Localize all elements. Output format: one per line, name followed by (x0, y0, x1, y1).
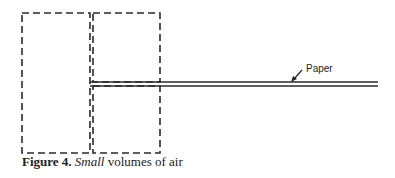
figure-number: Figure 4. (22, 154, 72, 169)
right-lower-air-volume-box (93, 86, 160, 153)
right-upper-air-volume-box (93, 13, 160, 82)
paper-pointer-arrow-icon (291, 70, 302, 82)
caption-text: volumes of air (104, 154, 182, 169)
caption-emphasis: Small (75, 154, 105, 169)
paper-label: Paper (306, 63, 333, 74)
figure-caption: Figure 4. Small volumes of air (22, 154, 183, 170)
left-air-volume-box (22, 13, 90, 153)
volumes-of-air-diagram: Paper (0, 0, 395, 178)
